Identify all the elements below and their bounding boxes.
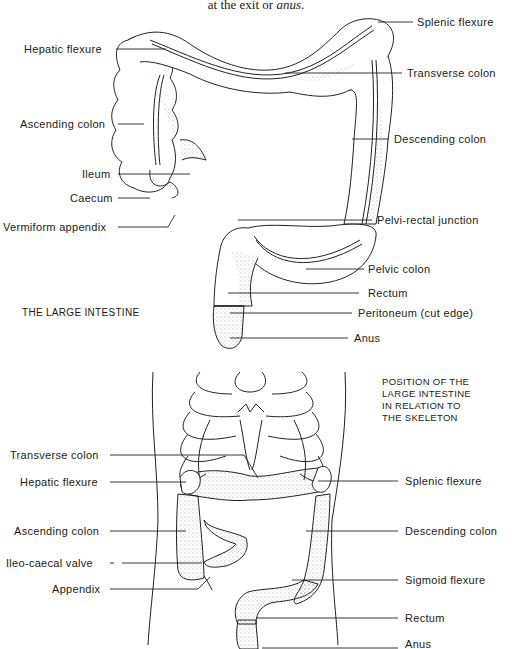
colon-in-skeleton: [177, 466, 332, 649]
title-line: THE SKELETON: [382, 412, 471, 424]
label-ileo-caecal-valve: Ileo-caecal valve: [6, 557, 93, 569]
label-transverse-colon: Transverse colon: [407, 67, 496, 79]
label-descending-colon-bottom: Descending colon: [405, 525, 497, 537]
label-ileum: Ileum: [82, 168, 110, 180]
title-line: POSITION OF THE: [382, 376, 471, 388]
title-line: IN RELATION TO: [382, 400, 471, 412]
label-anus-top: Anus: [354, 332, 380, 344]
title-line: LARGE INTESTINE: [382, 388, 471, 400]
label-ascending-colon: Ascending colon: [20, 118, 105, 130]
label-splenic-flexure: Splenic flexure: [417, 16, 494, 28]
anatomy-illustration: [0, 0, 512, 649]
label-pelvic-colon: Pelvic colon: [368, 263, 430, 275]
label-vermiform-appendix: Vermiform appendix: [3, 221, 106, 233]
label-ascending-colon-bottom: Ascending colon: [14, 525, 99, 537]
label-splenic-flexure-bottom: Splenic flexure: [405, 475, 482, 487]
label-pelvi-rectal-junction: Pelvi-rectal junction: [377, 214, 479, 226]
large-intestine-diagram: [112, 19, 394, 349]
title-position-skeleton: POSITION OF THE LARGE INTESTINE IN RELAT…: [382, 376, 471, 424]
label-caecum: Caecum: [70, 192, 113, 204]
title-large-intestine: THE LARGE INTESTINE: [22, 307, 139, 319]
label-anus-bottom: Anus: [405, 638, 431, 649]
label-transverse-colon-bottom: Transverse colon: [10, 449, 99, 461]
label-hepatic-flexure-bottom: Hepatic flexure: [20, 476, 98, 488]
label-peritoneum: Peritoneum (cut edge): [358, 307, 473, 319]
label-rectum-bottom: Rectum: [405, 612, 445, 624]
label-appendix: Appendix: [52, 583, 100, 595]
label-descending-colon: Descending colon: [394, 133, 486, 145]
label-rectum-top: Rectum: [368, 287, 408, 299]
label-sigmoid-flexure: Sigmoid flexure: [405, 574, 485, 586]
label-hepatic-flexure: Hepatic flexure: [24, 43, 102, 55]
